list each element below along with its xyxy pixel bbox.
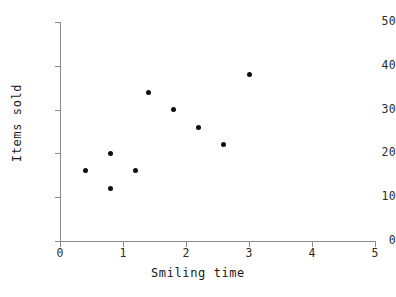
data-point <box>83 168 88 173</box>
data-point <box>221 142 226 147</box>
x-tick-label: 5 <box>363 248 387 259</box>
data-point <box>133 168 138 173</box>
data-point <box>247 72 252 77</box>
x-tick-label: 0 <box>48 248 72 259</box>
y-axis-title: Items sold <box>10 73 24 173</box>
x-tick-label: 4 <box>300 248 324 259</box>
data-point <box>171 107 176 112</box>
data-point <box>108 151 113 156</box>
data-point <box>108 186 113 191</box>
x-axis-spine <box>60 241 376 242</box>
x-tick-label: 1 <box>111 248 135 259</box>
x-tick-label: 2 <box>174 248 198 259</box>
data-point <box>196 125 201 130</box>
data-point <box>146 90 151 95</box>
plot-area <box>60 22 375 241</box>
x-tick-label: 3 <box>237 248 261 259</box>
scatter-plot-figure: 01020304050 012345 Smiling time Items so… <box>0 0 396 297</box>
x-axis-title: Smiling time <box>0 266 396 280</box>
